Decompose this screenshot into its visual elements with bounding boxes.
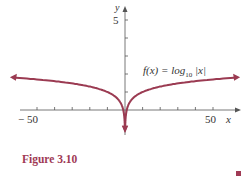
function-label-suffix: |x| [192,64,206,76]
x-axis-label: x [226,114,231,125]
y-axis-label: y [115,3,119,13]
figure-caption: Figure 3.10 [22,153,77,165]
curve-right-branch [125,78,234,128]
y-ticks [125,20,128,92]
curve-arrow-right-icon [233,74,240,81]
y-axis-arrow-icon [123,6,128,12]
function-label-prefix: f(x) = log [143,64,185,76]
x-tick-label-50: 50 [205,114,216,125]
curve-arrow-down-right-icon [122,126,128,133]
curve-arrow-left-icon [10,74,17,81]
end-of-example-marker [236,171,241,176]
x-tick-label-neg50: − 50 [18,114,38,125]
y-tick-label-5: 5 [113,15,119,26]
function-label: f(x) = log10 |x| [143,64,206,79]
x-axis-arrow-icon [235,108,241,113]
